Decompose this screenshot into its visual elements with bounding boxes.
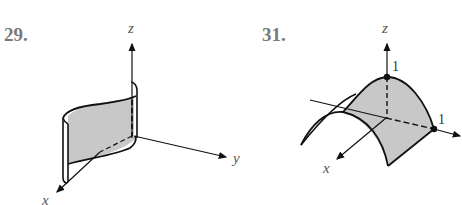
peak-point: [384, 74, 390, 80]
y-intercept-point: [431, 126, 437, 132]
figure-31: 31. z y x 1 1: [231, 0, 462, 205]
figure-29: 29. z x: [0, 0, 231, 205]
surface-plot: [231, 0, 462, 205]
surface-plot: [0, 0, 231, 205]
